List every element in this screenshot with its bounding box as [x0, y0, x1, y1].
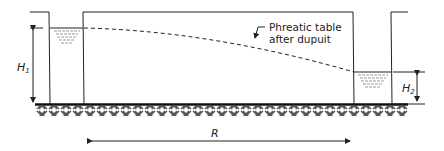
annotation-line1: Phreatic table — [269, 21, 342, 33]
h1-dimension — [30, 28, 43, 102]
ground — [35, 105, 408, 117]
dupuit-diagram: Phreatic table after dupuit H1 H2 R — [0, 0, 444, 151]
r-label: R — [211, 127, 219, 140]
annotation-leader — [255, 27, 265, 38]
left-water — [50, 28, 83, 43]
right-trench — [353, 12, 392, 104]
h2-label: H2 — [402, 82, 415, 96]
right-water — [354, 72, 391, 87]
h1-label: H1 — [17, 61, 30, 75]
left-trench — [49, 12, 84, 104]
annotation-line2: after dupuit — [269, 33, 331, 45]
